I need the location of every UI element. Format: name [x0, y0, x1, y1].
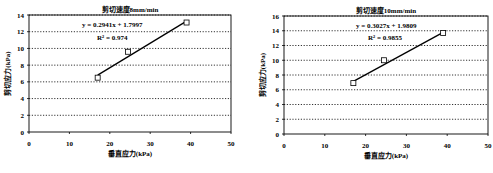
y-tick-label: 16	[272, 13, 280, 21]
y-tick-label: 6	[21, 78, 25, 86]
r-squared-label: R² = 0.9855	[368, 34, 402, 42]
x-axis-label: 垂直应力(kPa)	[108, 149, 153, 158]
y-tick-label: 0	[21, 129, 25, 137]
r-squared-label: R² = 0.974	[97, 34, 128, 42]
data-point-marker	[351, 81, 356, 86]
x-tick-label: 40	[187, 140, 195, 148]
y-tick-label: 2	[276, 116, 280, 124]
x-tick-label: 20	[362, 142, 370, 150]
x-tick-label: 20	[106, 140, 114, 148]
x-tick-label: 50	[228, 140, 236, 148]
x-tick-label: 40	[444, 142, 452, 150]
data-point-marker	[95, 75, 100, 80]
chart-title: 剪切速度10mm/min	[356, 6, 416, 15]
y-tick-label: 4	[21, 95, 25, 103]
y-tick-label: 6	[276, 86, 280, 94]
trendline-equation: y = 0.3027x + 1.9809	[356, 22, 417, 30]
y-axis-label: 剪切应力(kPa)	[258, 52, 267, 97]
x-tick-label: 30	[403, 142, 411, 150]
x-tick-label: 10	[66, 140, 74, 148]
x-tick-label: 50	[485, 142, 493, 150]
y-axis-label: 剪切应力(kPa)	[3, 51, 12, 96]
data-point-marker	[381, 58, 386, 63]
chart-10mm-svg: 024681012141601020304050剪切速度10mm/min垂直应力…	[246, 0, 493, 173]
x-tick-label: 30	[147, 140, 155, 148]
plot-area-border	[29, 15, 231, 132]
chart-shear-10mm: 024681012141601020304050剪切速度10mm/min垂直应力…	[246, 0, 493, 173]
y-tick-label: 14	[272, 27, 280, 35]
y-tick-label: 12	[17, 28, 25, 36]
y-tick-label: 4	[276, 101, 280, 109]
x-tick-label: 0	[27, 140, 31, 148]
y-tick-label: 10	[272, 57, 280, 65]
chart-title: 剪切速度8mm/min	[102, 5, 159, 14]
x-tick-label: 10	[321, 142, 329, 150]
data-point-marker	[184, 20, 189, 25]
y-tick-label: 0	[276, 131, 280, 139]
y-tick-label: 10	[17, 45, 25, 53]
y-tick-label: 2	[21, 112, 25, 120]
y-tick-label: 12	[272, 42, 280, 50]
trendline-equation: y = 0.2941x + 1.7997	[82, 21, 143, 29]
x-tick-label: 0	[282, 142, 286, 150]
x-axis-label: 垂直应力(kPa)	[364, 151, 409, 160]
chart-8mm-svg: 0246810121401020304050剪切速度8mm/min垂直应力(kP…	[0, 0, 246, 173]
data-point-marker	[125, 49, 130, 54]
y-tick-label: 8	[276, 72, 280, 80]
chart-shear-8mm: 0246810121401020304050剪切速度8mm/min垂直应力(kP…	[0, 0, 246, 173]
y-tick-label: 14	[17, 12, 25, 20]
data-point-marker	[441, 30, 446, 35]
y-tick-label: 8	[21, 62, 25, 70]
